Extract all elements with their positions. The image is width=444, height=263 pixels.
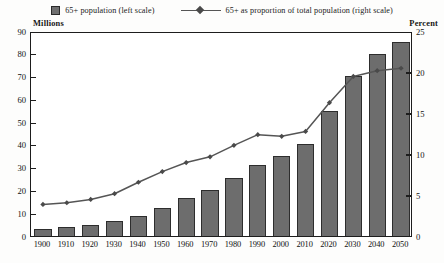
legend-label-bars: 65+ population (left scale): [65, 6, 154, 15]
right-axis-label-25: 25: [416, 28, 440, 37]
right-axis-label-0: 0: [416, 233, 440, 242]
right-tick-20: [406, 72, 412, 73]
left-tick-10: [30, 214, 36, 215]
left-axis-label-20: 20: [4, 187, 26, 196]
diamond-marker-icon-1940: [136, 180, 141, 185]
plot-inner: [31, 33, 411, 236]
bar-1930: [106, 221, 123, 236]
right-axis-label-15: 15: [416, 110, 440, 119]
bar-2010: [297, 144, 314, 236]
left-axis-label-30: 30: [4, 164, 26, 173]
left-axis-label-70: 70: [4, 73, 26, 82]
diamond-marker-icon-1930: [112, 191, 117, 196]
legend-entry-bars: 65+ population (left scale): [51, 6, 154, 15]
bar-1900: [34, 229, 51, 236]
chart-container: 65+ population (left scale) 65+ as propo…: [0, 0, 444, 263]
legend-entry-line: 65+ as proportion of total population (r…: [181, 6, 393, 15]
diamond-marker-icon-1900: [40, 202, 45, 207]
diamond-marker-icon: [181, 6, 221, 15]
bar-1960: [178, 198, 195, 236]
right-tick-15: [406, 113, 412, 114]
left-tick-30: [30, 168, 36, 169]
bar-1950: [154, 208, 171, 236]
diamond-marker-icon-1910: [64, 200, 69, 205]
diamond-marker-icon-2010: [303, 129, 308, 134]
bar-1980: [225, 178, 242, 236]
diamond-marker-icon-1920: [88, 197, 93, 202]
left-tick-50: [30, 123, 36, 124]
diamond-marker-icon-1980: [231, 143, 236, 148]
diamond-marker-icon-1960: [184, 160, 189, 165]
left-axis-label-50: 50: [4, 119, 26, 128]
bar-1910: [58, 227, 75, 236]
left-axis-label-0: 0: [4, 233, 26, 242]
right-tick-10: [406, 154, 412, 155]
bar-1940: [130, 216, 147, 237]
bar-2040: [369, 54, 386, 236]
left-axis-label-40: 40: [4, 141, 26, 150]
right-axis-label-5: 5: [416, 192, 440, 201]
x-axis-label-2050: 2050: [385, 240, 415, 249]
left-tick-70: [30, 77, 36, 78]
diamond-marker-icon-2020: [327, 100, 332, 105]
left-axis-label-90: 90: [4, 28, 26, 37]
right-axis-label-20: 20: [416, 69, 440, 78]
diamond-marker-icon-1990: [255, 132, 260, 137]
bar-2020: [321, 111, 338, 236]
diamond-marker-icon-1970: [207, 154, 212, 159]
bar-1920: [82, 225, 99, 236]
legend-label-line: 65+ as proportion of total population (r…: [226, 6, 393, 15]
left-tick-60: [30, 100, 36, 101]
bar-1970: [201, 190, 218, 236]
left-tick-40: [30, 145, 36, 146]
bar-2000: [273, 156, 290, 236]
filled-square-icon: [51, 6, 60, 15]
left-axis-label-80: 80: [4, 50, 26, 59]
chart-legend: 65+ population (left scale) 65+ as propo…: [0, 2, 444, 18]
left-axis-label-60: 60: [4, 96, 26, 105]
left-tick-80: [30, 54, 36, 55]
diamond-marker-icon-1950: [160, 169, 165, 174]
left-axis-label-10: 10: [4, 210, 26, 219]
left-tick-20: [30, 191, 36, 192]
plot-area: [30, 32, 412, 237]
bar-2030: [345, 76, 362, 236]
bar-1990: [249, 165, 266, 236]
left-axis-unit-label: Millions: [33, 19, 64, 28]
diamond-marker-icon-2000: [279, 134, 284, 139]
right-axis-label-10: 10: [416, 151, 440, 160]
right-tick-5: [406, 195, 412, 196]
